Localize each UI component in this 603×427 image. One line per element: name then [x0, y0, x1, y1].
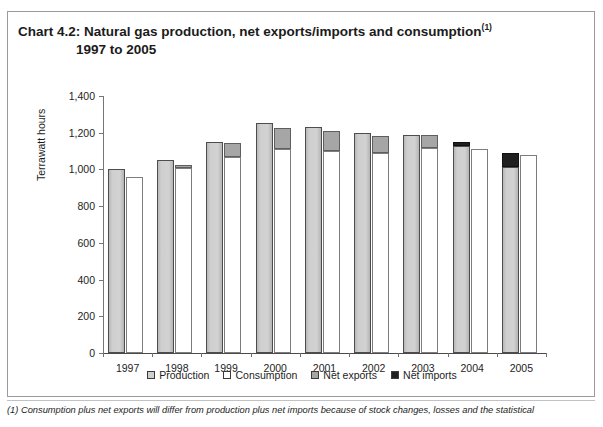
bar-production: [256, 123, 273, 353]
legend-item: Consumption: [223, 369, 297, 381]
bar-group: [103, 95, 152, 353]
bar-consumption: [224, 157, 241, 353]
legend-swatch-icon: [391, 371, 399, 379]
bar-consumption: [372, 153, 389, 353]
bar-net-exports: [175, 165, 192, 168]
chart-legend: ProductionConsumptionNet exportsNet impo…: [8, 369, 596, 381]
bar-production: [453, 146, 470, 353]
plot-area: Terrawatt hours 1,4001,2001,000800600400…: [103, 85, 546, 353]
bar-net-exports: [372, 136, 389, 153]
bar-production: [403, 135, 420, 353]
chart-frame: Chart 4.2: Natural gas production, net e…: [7, 11, 595, 397]
legend-swatch-icon: [311, 371, 319, 379]
x-axis-tick-mark: [546, 353, 547, 357]
bar-production: [206, 142, 223, 353]
legend-label: Consumption: [235, 369, 297, 381]
legend-label: Production: [159, 369, 209, 381]
y-axis-tick-label: 1,000: [45, 164, 95, 174]
bar-group: [398, 95, 447, 353]
plot-inner: 1,4001,2001,0008006004002000 19971998199…: [103, 96, 546, 353]
y-axis-tick-label: 1,200: [45, 128, 95, 138]
bar-production: [157, 160, 174, 353]
bar-net-imports: [502, 153, 519, 167]
x-axis-tick-mark: [251, 353, 252, 357]
bar-net-imports: [453, 142, 470, 146]
bar-group: [448, 95, 497, 353]
bar-net-exports: [421, 135, 438, 148]
y-axis-tick-label: 200: [45, 311, 95, 321]
y-axis-label: Terrawatt hours: [35, 41, 47, 181]
bar-consumption: [323, 151, 340, 353]
chart-title-line2: 1997 to 2005: [18, 41, 578, 59]
x-axis-tick-mark: [497, 353, 498, 357]
bar-net-exports: [274, 128, 291, 149]
bar-group: [201, 95, 250, 353]
bar-production: [354, 133, 371, 353]
bar-group: [300, 95, 349, 353]
x-axis-tick-mark: [448, 353, 449, 357]
y-axis-tick-label: 600: [45, 238, 95, 248]
y-axis-tick-label: 0: [45, 348, 95, 358]
bar-group: [152, 95, 201, 353]
bar-consumption: [471, 149, 488, 353]
bar-group: [349, 95, 398, 353]
chart-title-line1: Chart 4.2: Natural gas production, net e…: [18, 24, 482, 39]
x-axis-tick-mark: [103, 353, 104, 357]
bar-production: [305, 127, 322, 353]
y-axis-tick-label: 1,400: [45, 91, 95, 101]
chart-footnote: (1) Consumption plus net exports will di…: [7, 404, 603, 416]
legend-label: Net imports: [403, 369, 457, 381]
bar-net-exports: [224, 143, 241, 157]
bar-production: [502, 167, 519, 353]
bar-group: [497, 95, 546, 353]
chart-title-footnote-marker: (1): [482, 22, 492, 32]
x-axis-line: [103, 353, 547, 354]
x-axis-tick-mark: [201, 353, 202, 357]
x-axis-tick-mark: [349, 353, 350, 357]
bar-production: [108, 169, 125, 353]
bar-consumption: [175, 168, 192, 353]
footnote-rule: [7, 400, 595, 401]
legend-label: Net exports: [323, 369, 377, 381]
legend-swatch-icon: [223, 371, 231, 379]
bar-net-exports: [323, 131, 340, 151]
y-axis-tick-label: 400: [45, 275, 95, 285]
legend-item: Net exports: [311, 369, 377, 381]
bar-consumption: [421, 148, 438, 353]
x-axis-tick-mark: [300, 353, 301, 357]
legend-swatch-icon: [147, 371, 155, 379]
legend-item: Net imports: [391, 369, 457, 381]
bar-consumption: [274, 149, 291, 353]
bar-consumption: [520, 155, 537, 353]
legend-item: Production: [147, 369, 209, 381]
chart-title: Chart 4.2: Natural gas production, net e…: [18, 18, 578, 59]
x-axis-tick-mark: [152, 353, 153, 357]
x-axis-tick-mark: [398, 353, 399, 357]
y-axis-tick-label: 800: [45, 201, 95, 211]
bar-group: [251, 95, 300, 353]
cut-off-text-bleed: [0, 0, 603, 11]
bar-consumption: [126, 177, 143, 353]
